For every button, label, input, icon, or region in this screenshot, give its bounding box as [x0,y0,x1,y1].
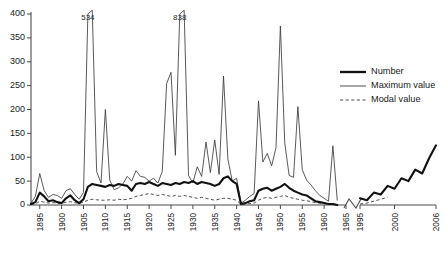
x-axis: 1895190019051910191519201925193019351940… [31,199,441,231]
legend-label-maximum-value: Maximum value [371,80,435,90]
legend-label-number: Number [371,66,404,76]
axis-break-icon [344,199,361,208]
data-series-group [31,10,436,205]
x-axis-tick-label: 1965 [342,213,351,232]
y-axis-tick-label: 300 [10,56,25,66]
x-axis-tick-label: 2006 [432,213,441,232]
x-axis-tick-label: 1900 [58,213,67,232]
line-chart: 050100150200250300350400 189519001905191… [0,0,446,253]
x-axis-tick-label: 1940 [233,213,242,232]
chart-legend: NumberMaximum valueModal value [340,66,435,104]
x-axis-tick-label: 1925 [167,213,176,232]
y-axis-tick-label: 250 [10,80,25,90]
peak-annotation-label: 534 [81,13,95,22]
x-axis-tick-label: 1910 [101,213,110,232]
annotations-group: 534838 [81,13,187,22]
series-line-number-recent [360,145,436,200]
x-axis-tick-label: 1945 [255,213,264,232]
x-axis-tick-label: 1915 [123,213,132,232]
y-axis-tick-label: 200 [10,104,25,114]
x-axis-tick-label: 1960 [320,213,329,232]
y-axis-tick-label: 0 [20,199,25,209]
y-axis-tick-label: 100 [10,152,25,162]
x-axis-tick-label: 1995 [356,213,365,232]
x-axis-tick-label: 1920 [145,213,154,232]
series-line-number [31,176,337,205]
x-axis-tick-label: 1905 [80,213,89,232]
y-axis-tick-label: 50 [15,176,25,186]
x-axis-tick-label: 1895 [36,213,45,232]
chart-container: 050100150200250300350400 189519001905191… [0,0,446,253]
x-axis-tick-label: 1955 [298,213,307,232]
series-line-modal-value-recent [360,197,388,204]
y-axis-tick-label: 150 [10,128,25,138]
y-axis-tick-label: 350 [10,32,25,42]
x-axis-tick-label: 2000 [391,213,400,232]
x-axis-tick-label: 1930 [189,213,198,232]
y-axis-tick-label: 400 [10,8,25,18]
x-axis-tick-label: 1935 [211,213,220,232]
series-line-maximum-value [31,10,337,203]
legend-label-modal-value: Modal value [371,94,421,104]
peak-annotation-label: 838 [173,13,187,22]
y-axis: 050100150200250300350400 [10,8,31,209]
x-axis-tick-label: 1950 [276,213,285,232]
